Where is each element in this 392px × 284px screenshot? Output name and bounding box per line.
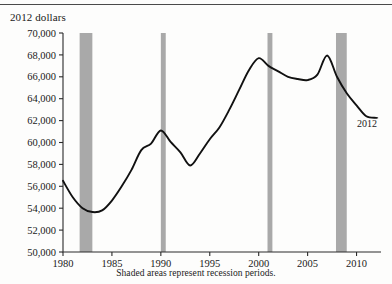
chart-figure: 2012 dollars 50,00052,00054,00056,00058,… [0, 0, 392, 284]
y-tick-label: 52,000 [27, 225, 56, 236]
y-tick-label: 70,000 [27, 28, 56, 39]
end-annotation-2012: 2012 [357, 118, 377, 129]
y-tick-label: 62,000 [27, 115, 56, 126]
y-tick-label: 58,000 [27, 159, 56, 170]
recession-band [161, 33, 166, 252]
y-tick-label: 50,000 [27, 247, 56, 258]
recession-band [80, 33, 93, 252]
y-tick-label: 56,000 [27, 181, 56, 192]
data-series-line [63, 55, 376, 212]
y-tick-label: 68,000 [27, 50, 56, 61]
y-tick-label: 66,000 [27, 71, 56, 82]
y-tick-label: 54,000 [27, 203, 56, 214]
y-tick-label: 60,000 [27, 137, 56, 148]
line-chart-plot: 50,00052,00054,00056,00058,00060,00062,0… [0, 0, 392, 284]
chart-caption: Shaded areas represent recession periods… [0, 268, 392, 278]
y-tick-label: 64,000 [27, 93, 56, 104]
recession-band [336, 33, 347, 252]
